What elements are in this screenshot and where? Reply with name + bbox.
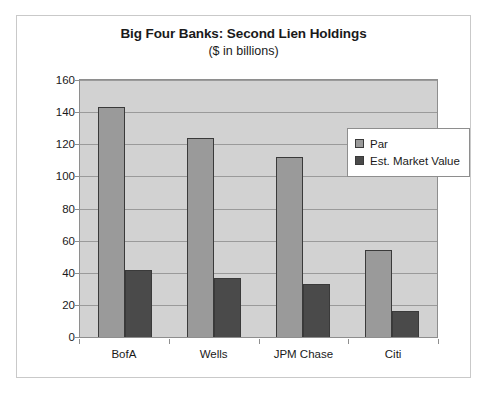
x-axis-tick-mark [259, 339, 260, 344]
x-axis-tick-mark [438, 339, 439, 344]
x-axis-tick-label: Wells [169, 339, 259, 365]
y-axis-tick-label: 100 [45, 170, 75, 182]
legend-item[interactable]: Est. Market Value [355, 152, 460, 169]
y-axis-tick-label: 0 [45, 331, 75, 343]
bar-par[interactable] [365, 250, 392, 337]
bar-est-market-value[interactable] [392, 311, 419, 337]
y-axis-tick-label: 20 [45, 299, 75, 311]
x-axis-tick-mark [348, 339, 349, 344]
chart-container: Big Four Banks: Second Lien Holdings ($ … [16, 15, 471, 378]
bar-group [348, 80, 437, 337]
legend-swatch-par [355, 139, 364, 148]
bar-est-market-value[interactable] [214, 278, 241, 337]
chart-subtitle: ($ in billions) [17, 43, 470, 60]
x-axis: BofAWellsJPM ChaseCiti [79, 339, 438, 365]
x-axis-tick-mark [79, 339, 80, 344]
legend-label: Par [370, 138, 388, 150]
y-axis: 020406080100120140160 [39, 79, 75, 338]
bar-group [80, 80, 169, 337]
y-axis-tick-label: 80 [45, 203, 75, 215]
bar-par[interactable] [98, 107, 125, 337]
chart-title: Big Four Banks: Second Lien Holdings [17, 25, 470, 42]
legend-label: Est. Market Value [370, 155, 460, 167]
x-axis-tick-mark [169, 339, 170, 344]
plot-area [79, 79, 438, 338]
x-axis-tick-label: BofA [79, 339, 169, 365]
chart-legend: ParEst. Market Value [347, 128, 470, 177]
y-axis-tick-label: 120 [45, 138, 75, 150]
title-block: Big Four Banks: Second Lien Holdings ($ … [17, 25, 470, 60]
bar-est-market-value[interactable] [125, 270, 152, 337]
y-axis-tick-label: 60 [45, 235, 75, 247]
legend-item[interactable]: Par [355, 135, 460, 152]
bar-group [169, 80, 258, 337]
bars-layer [80, 80, 437, 337]
y-axis-tick-label: 140 [45, 106, 75, 118]
y-axis-tick-label: 40 [45, 267, 75, 279]
legend-swatch-est-market-value [355, 156, 364, 165]
y-axis-tick-label: 160 [45, 74, 75, 86]
bar-par[interactable] [187, 138, 214, 337]
x-axis-tick-label: Citi [348, 339, 438, 365]
bar-group [259, 80, 348, 337]
bar-est-market-value[interactable] [303, 284, 330, 337]
x-axis-tick-label: JPM Chase [259, 339, 349, 365]
bar-par[interactable] [276, 157, 303, 337]
